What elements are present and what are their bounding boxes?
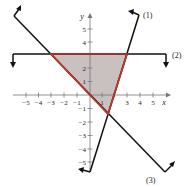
y-tick-label: −2 [79,119,87,127]
coordinate-graph: −5 −4 −3 −2 −1 1 3 4 5 x 5 4 2 1 −1 −2 −… [0,0,193,187]
y-tick-label: −4 [79,146,87,154]
x-axis: −5 −4 −3 −2 −1 1 3 4 5 x [13,93,171,108]
x-tick-label: −3 [47,99,55,107]
x-axis-label: x [161,98,166,107]
arrow-down-icon [163,62,169,68]
y-tick-label: 4 [83,39,87,47]
x-tick-label: −5 [22,99,30,107]
y-tick-label: 2 [83,65,87,73]
line-1-label: (1) [143,11,153,20]
x-tick-label: 5 [151,99,155,107]
line-2-label: (2) [172,51,182,60]
arrow-left-icon [78,167,84,173]
x-tick-label: −4 [35,99,43,107]
line-3-label: (3) [146,176,156,185]
x-tick-label: 4 [138,99,142,107]
y-tick-label: −5 [79,159,87,167]
y-tick-label: −1 [79,105,87,113]
arrow-left-icon [128,9,134,15]
y-tick-label: 1 [83,78,87,86]
x-tick-label: 3 [125,99,129,107]
x-tick-label: −2 [60,99,68,107]
y-axis-label: y [79,12,84,21]
arrow-down-icon [10,62,16,68]
y-tick-label: −3 [79,132,87,140]
y-tick-label: 5 [83,26,87,34]
